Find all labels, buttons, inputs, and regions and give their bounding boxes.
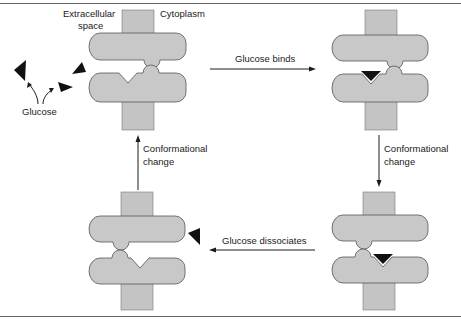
arrowhead-icon (377, 180, 382, 187)
upper-subunit (332, 35, 428, 69)
label-glucose: Glucose (22, 106, 57, 117)
step-glucose-dissociates: Glucose dissociates (209, 235, 315, 253)
label-extracellular: Extracellular (63, 8, 115, 19)
membrane-bottom (365, 100, 397, 130)
transporter-state-1 (89, 10, 186, 130)
membrane-top (363, 192, 395, 217)
lower-subunit (89, 65, 186, 102)
transporter-state-4 (89, 192, 200, 310)
arrowhead-icon (209, 248, 216, 253)
membrane-bottom (121, 282, 153, 310)
glucose-icon (58, 82, 73, 92)
membrane-top (365, 10, 397, 36)
arrowhead-icon (49, 88, 54, 93)
upper-subunit (89, 33, 186, 68)
label-glucose-binds: Glucose binds (235, 53, 295, 64)
label-cytoplasm: Cytoplasm (160, 8, 205, 19)
upper-subunit (332, 215, 428, 249)
glucose-icon (72, 62, 86, 74)
arrow-glucose-left (29, 84, 38, 104)
label-change: change (384, 156, 415, 167)
transport-cycle-diagram: Extracellular space Cytoplasm Glucose Gl… (0, 0, 461, 324)
arrowhead-icon (309, 67, 316, 72)
step-glucose-binds: Glucose binds (210, 53, 316, 72)
membrane-bottom (363, 282, 395, 310)
transporter-state-2 (332, 10, 428, 130)
free-glucose-group (14, 60, 86, 104)
step-conformational-change-left: Conformational change (136, 135, 208, 190)
step-conformational-change-right: Conformational change (377, 135, 449, 187)
lower-subunit (89, 250, 185, 284)
label-conformational: Conformational (384, 143, 448, 154)
transporter-state-3 (332, 192, 428, 310)
membrane-top (122, 10, 154, 34)
label-glucose-dissociates: Glucose dissociates (222, 235, 307, 246)
released-glucose-icon (188, 228, 200, 245)
label-change: change (143, 156, 174, 167)
label-conformational: Conformational (143, 143, 207, 154)
arrowhead-icon (136, 135, 141, 142)
membrane-bottom (122, 100, 154, 130)
upper-subunit (89, 216, 185, 250)
label-space: space (78, 20, 103, 31)
membrane-top (121, 192, 153, 218)
glucose-icon (14, 60, 26, 81)
